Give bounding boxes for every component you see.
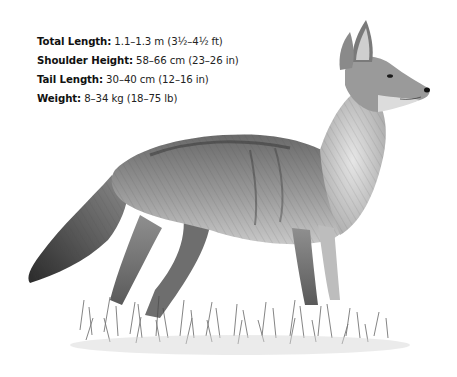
spec-value: 58–66 cm (23–26 in) [133,55,239,66]
spec-tail-length: Tail Length: 30–40 cm (12–16 in) [37,70,239,89]
nose [424,88,430,93]
spec-shoulder-height: Shoulder Height: 58–66 cm (23–26 in) [37,51,239,70]
spec-total-length: Total Length: 1.1–1.3 m (3½–4½ ft) [37,32,239,51]
spec-label: Weight: [37,93,81,104]
spec-value: 1.1–1.3 m (3½–4½ ft) [111,36,222,47]
spec-label: Tail Length: [37,74,103,85]
spec-label: Total Length: [37,36,111,47]
spec-label: Shoulder Height: [37,55,133,66]
spec-weight: Weight: 8–34 kg (18–75 lb) [37,89,239,108]
spec-value: 30–40 cm (12–16 in) [103,74,209,85]
measurement-list: Total Length: 1.1–1.3 m (3½–4½ ft) Shoul… [37,32,239,108]
eye [387,74,393,78]
spec-value: 8–34 kg (18–75 lb) [81,93,177,104]
